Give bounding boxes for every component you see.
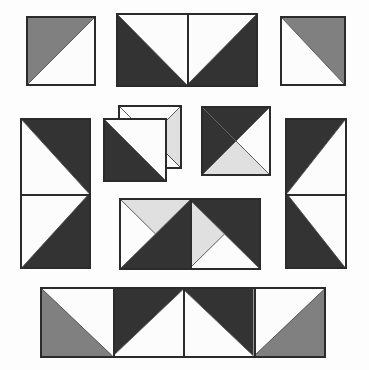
hst-dark-upper-right [22,120,89,194]
top-right-square-grid [282,18,344,84]
seam-divider [287,194,345,196]
bottom-rectangle[interactable] [40,287,326,358]
mid-dark-triangle-front[interactable] [103,118,167,182]
center-rectangle[interactable] [119,198,261,270]
left-tall-rectangle[interactable] [20,118,91,269]
hst-dark-lower-left [118,15,187,85]
seam-divider [187,15,189,85]
mid-right-square[interactable] [201,106,271,176]
hst-gray-lower-right [254,289,325,356]
seam-divider [254,289,256,356]
block-layout-canvas [0,0,369,370]
seam-divider [113,289,115,356]
right-tall-rectangle[interactable] [285,118,347,269]
hst-dark-lower-right [22,194,89,268]
hst-dark-lower-right [187,15,256,85]
hst-gray-lower-left [42,289,113,356]
seam-divider [22,194,89,196]
hst-gray-upper-left [28,18,94,84]
qst-dark-top-light-left [190,200,259,268]
top-left-square-grid [28,18,94,84]
top-right-square[interactable] [280,16,346,86]
mid-dark-triangle-front-grid [105,120,165,180]
seam-divider [183,289,185,356]
top-left-square[interactable] [26,16,96,86]
top-center-rectangle[interactable] [116,13,258,87]
hst-dark-upper-left [287,120,345,194]
qst-dark-top-light-bottom [203,108,269,174]
hst-gray-upper-right [282,18,344,84]
mid-right-square-grid [203,108,269,174]
qst-light-top-dark-right [121,200,190,268]
hst-dark-lower-left [287,194,345,268]
hst-dark-upper-right [183,289,254,356]
seam-divider [190,200,192,268]
hst-dark-upper-left [113,289,184,356]
hst-dark-lower-left [105,120,165,180]
